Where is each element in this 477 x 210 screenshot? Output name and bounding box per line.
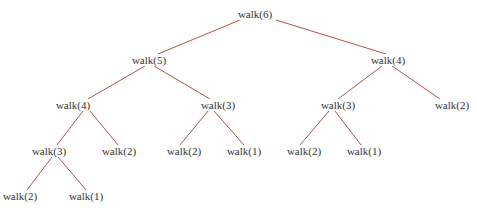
- tree-node-n13: walk(2): [2, 190, 38, 202]
- tree-node-n7: walk(3): [31, 145, 67, 157]
- tree-edge: [276, 20, 386, 54]
- tree-edge: [58, 157, 86, 190]
- tree-node-n4: walk(3): [200, 99, 236, 111]
- tree-edge: [27, 157, 52, 190]
- tree-node-n10: walk(1): [226, 145, 262, 157]
- tree-edge: [214, 111, 244, 145]
- tree-edge: [88, 66, 145, 99]
- tree-node-n9: walk(2): [166, 145, 202, 157]
- tree-node-n3: walk(4): [55, 99, 91, 111]
- tree-node-n11: walk(2): [286, 145, 322, 157]
- tree-edge: [90, 111, 118, 145]
- tree-edge: [57, 111, 83, 145]
- tree-node-n12: walk(1): [346, 145, 382, 157]
- tree-edge: [154, 66, 210, 99]
- tree-node-n8: walk(2): [101, 145, 137, 157]
- tree-node-n2: walk(4): [370, 54, 406, 66]
- tree-edge: [300, 111, 329, 145]
- tree-edge: [338, 66, 382, 99]
- tree-node-n0: walk(6): [237, 8, 273, 20]
- tree-node-n5: walk(3): [320, 99, 356, 111]
- tree-edge: [335, 111, 361, 145]
- tree-edge: [180, 111, 208, 145]
- tree-edge: [158, 20, 240, 54]
- tree-edge: [392, 66, 440, 99]
- tree-node-n6: walk(2): [434, 99, 470, 111]
- tree-node-n1: walk(5): [131, 54, 167, 66]
- recursion-tree-diagram: walk(6)walk(5)walk(4)walk(4)walk(3)walk(…: [0, 0, 477, 210]
- tree-node-n14: walk(1): [68, 190, 104, 202]
